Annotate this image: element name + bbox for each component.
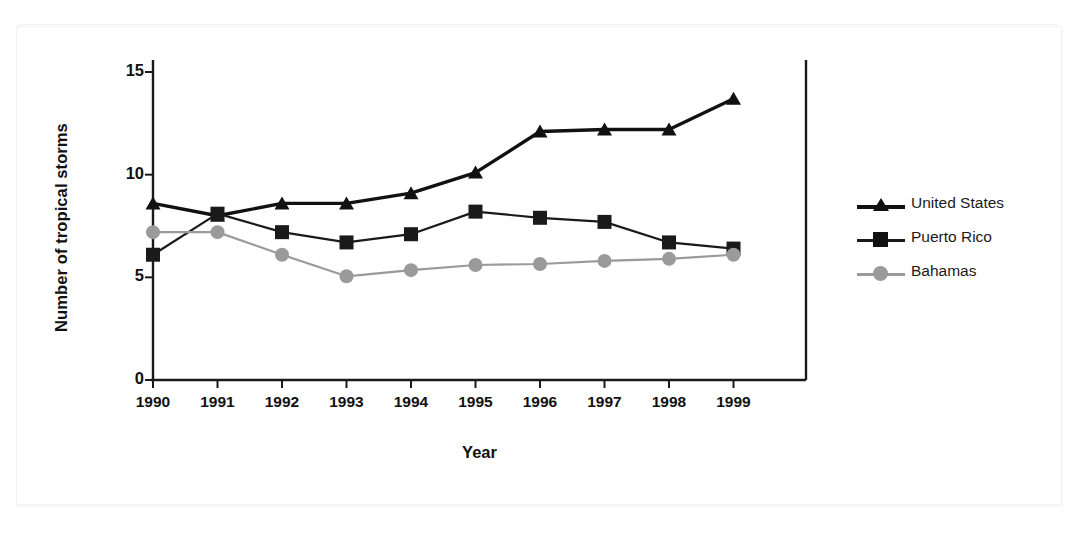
data-point-marker [469, 258, 483, 272]
series-united-states [146, 92, 742, 222]
data-point-marker [275, 225, 289, 239]
data-point-marker [533, 211, 547, 225]
series-line [153, 99, 734, 216]
data-point-marker [211, 207, 225, 221]
data-point-marker [662, 235, 676, 249]
data-point-marker [211, 225, 225, 239]
legend-label: United States [911, 194, 1004, 212]
series-line [153, 232, 734, 276]
series-line [153, 212, 734, 255]
data-point-marker [404, 227, 418, 241]
data-point-marker [662, 252, 676, 266]
legend-square-icon [873, 232, 888, 247]
data-point-marker [598, 215, 612, 229]
data-point-marker [726, 92, 741, 105]
legend-triangle-icon [873, 198, 889, 211]
data-point-marker [340, 269, 354, 283]
legend-label: Bahamas [911, 262, 976, 280]
data-point-marker [275, 248, 289, 262]
data-point-marker [469, 205, 483, 219]
series-bahamas [146, 225, 741, 283]
data-point-marker [533, 257, 547, 271]
data-point-marker [598, 254, 612, 268]
data-point-marker [404, 263, 418, 277]
data-point-marker [146, 225, 160, 239]
data-point-marker [146, 248, 160, 262]
legend-label: Puerto Rico [911, 228, 992, 246]
line-chart-figure: Number of tropical storms Year 051015 19… [0, 0, 1088, 541]
data-point-marker [727, 248, 741, 262]
data-point-marker [340, 235, 354, 249]
legend-circle-icon [873, 266, 888, 281]
